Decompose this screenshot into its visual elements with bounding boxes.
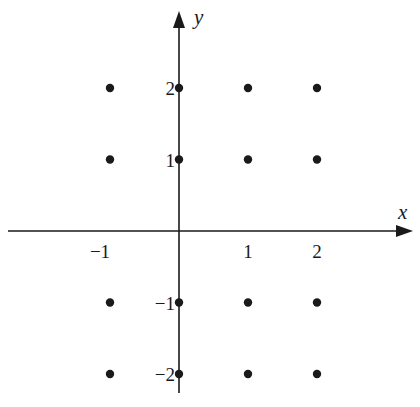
data-point (175, 84, 183, 92)
y-tick-label: 2 (166, 78, 176, 99)
y-axis-label: y (192, 5, 204, 29)
y-tick-label: −1 (155, 293, 175, 314)
data-point (106, 298, 114, 306)
x-tick-labels: −112 (90, 241, 322, 262)
data-point (313, 370, 321, 378)
x-axis-arrowhead-icon (396, 225, 413, 237)
axes: x y (8, 5, 413, 393)
data-point (106, 370, 114, 378)
y-tick-label: 1 (166, 150, 176, 171)
data-point (106, 155, 114, 163)
y-tick-label: −2 (155, 364, 175, 385)
x-tick-label: −1 (90, 241, 110, 262)
data-point (175, 155, 183, 163)
data-point (244, 370, 252, 378)
data-point (313, 84, 321, 92)
data-point (175, 298, 183, 306)
data-point (244, 84, 252, 92)
data-point (313, 298, 321, 306)
x-tick-label: 1 (243, 241, 253, 262)
data-point (313, 155, 321, 163)
data-point (244, 155, 252, 163)
lattice-plot: x y −112 21−1−2 (0, 0, 420, 407)
data-point (175, 370, 183, 378)
data-point (106, 84, 114, 92)
x-axis-label: x (397, 200, 408, 224)
data-point (244, 298, 252, 306)
y-axis-arrowhead-icon (173, 11, 185, 28)
x-tick-label: 2 (312, 241, 322, 262)
